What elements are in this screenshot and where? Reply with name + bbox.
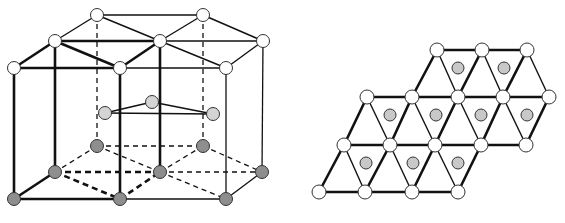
lattice-atom <box>542 90 556 104</box>
top-atom <box>91 9 104 22</box>
base-edge-dashed <box>203 146 262 172</box>
lattice-edge-backslash <box>412 97 435 145</box>
vertical-edge <box>262 41 263 172</box>
crystal-structure-diagram <box>0 0 565 223</box>
top-atom <box>220 62 233 75</box>
base-atom <box>256 166 269 179</box>
base-atom <box>197 140 210 153</box>
lattice-atom <box>474 138 488 152</box>
top-edge-thick <box>120 41 160 68</box>
interstitial-atom <box>498 62 510 74</box>
lattice-edge-backslash <box>482 50 503 97</box>
hexagonal-unit-cell <box>8 9 270 206</box>
top-atom <box>154 35 167 48</box>
lattice-atom <box>405 185 419 199</box>
top-edge <box>55 15 97 41</box>
lattice-edge-backslash <box>390 145 412 192</box>
lattice-atom <box>430 43 444 57</box>
lattice-atom <box>312 185 326 199</box>
top-edge <box>203 15 263 41</box>
lattice-edge-backslash <box>527 50 549 97</box>
lattice-atom <box>496 90 510 104</box>
top-edge <box>97 15 160 41</box>
lattice-atom <box>519 138 533 152</box>
top-atom <box>114 62 127 75</box>
mid-layer-atom <box>146 96 159 109</box>
base-atom <box>91 140 104 153</box>
top-edge <box>160 15 203 41</box>
lattice-atom <box>358 185 372 199</box>
interstitial-atom <box>452 157 464 169</box>
base-atom <box>154 166 167 179</box>
top-atom <box>8 62 21 75</box>
base-edge-thick <box>14 172 55 199</box>
base-edge-dashed-thick <box>55 172 120 199</box>
base-edge-dashed-thick <box>120 172 160 199</box>
lattice-edge-backslash <box>503 97 526 145</box>
lattice-atom <box>475 43 489 57</box>
lattice-atom <box>405 90 419 104</box>
interstitial-atom <box>475 109 487 121</box>
interstitial-atom <box>360 157 372 169</box>
lattice-edge-slash <box>412 50 437 97</box>
top-edge-thick <box>55 41 120 68</box>
interstitial-atom <box>407 157 419 169</box>
interstitial-atom <box>521 109 533 121</box>
lattice-atom <box>451 90 465 104</box>
top-atom <box>197 9 210 22</box>
base-edge-dashed <box>97 146 160 172</box>
lattice-atom <box>520 43 534 57</box>
lattice-edge-slash <box>390 97 412 145</box>
top-atom <box>49 35 62 48</box>
lattice-atom <box>428 138 442 152</box>
base-atom <box>220 193 233 206</box>
top-edge-thick <box>14 41 55 68</box>
top-atom <box>257 35 270 48</box>
lattice-edge-slash <box>458 50 482 97</box>
lattice-edge-slash <box>481 97 503 145</box>
interstitial-atom <box>384 109 396 121</box>
lattice-atom <box>451 185 465 199</box>
lattice-atom <box>360 90 374 104</box>
lattice-edge-slash <box>319 145 344 192</box>
base-edge-dashed <box>55 146 97 172</box>
base-atom <box>8 193 21 206</box>
lattice-edge-backslash <box>344 145 365 192</box>
base-edge-dashed <box>160 172 226 199</box>
mid-layer-edge <box>105 102 152 113</box>
base-edge-dashed <box>160 146 203 172</box>
lattice-atom <box>383 138 397 152</box>
top-edge <box>160 41 226 68</box>
triangular-lattice-layer <box>312 43 556 199</box>
lattice-atom <box>337 138 351 152</box>
lattice-edge-backslash <box>367 97 390 145</box>
mid-layer-atom <box>99 107 112 120</box>
mid-layer-edge <box>105 113 213 114</box>
base-atom <box>114 193 127 206</box>
base-atom <box>49 166 62 179</box>
interstitial-atom <box>430 109 442 121</box>
lattice-edge-slash <box>344 97 367 145</box>
lattice-edge-backslash <box>458 97 481 145</box>
mid-layer-atom <box>207 108 220 121</box>
interstitial-atom <box>452 62 464 74</box>
